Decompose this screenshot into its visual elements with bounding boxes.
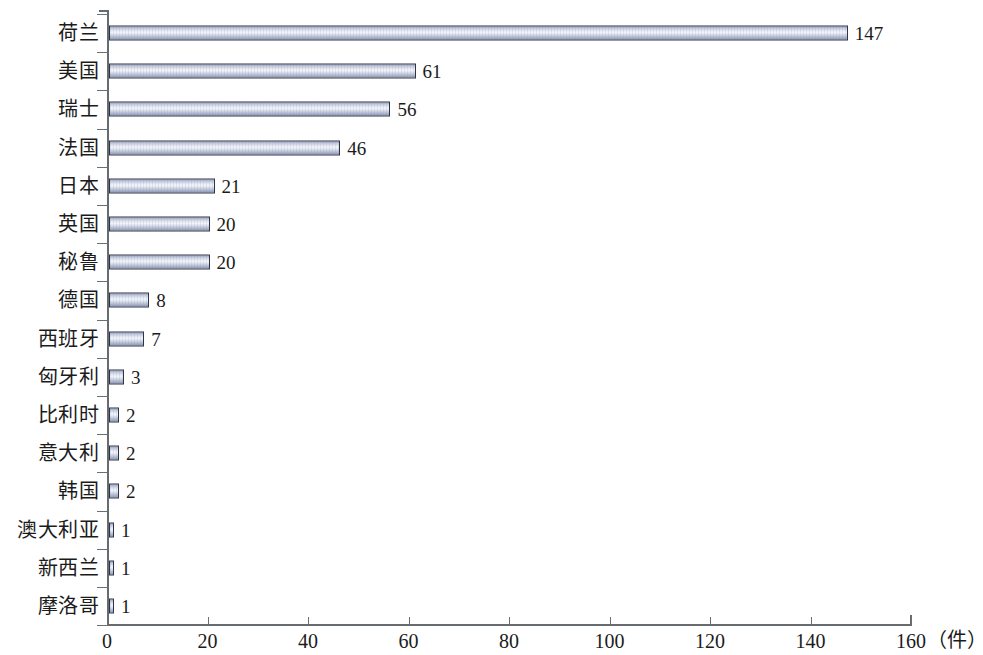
- bar: [109, 369, 124, 384]
- bar-with-value: 20: [109, 255, 236, 270]
- y-axis-tick: [97, 52, 108, 53]
- y-axis-tick: [97, 549, 108, 550]
- bar: [109, 178, 215, 193]
- bar-value-label: 1: [121, 597, 131, 616]
- bar: [109, 446, 119, 461]
- x-axis-unit-label: （件）: [927, 630, 983, 650]
- bar-with-value: 46: [109, 140, 366, 155]
- x-axis-tick-label: 80: [499, 631, 519, 651]
- bar: [109, 560, 114, 575]
- bar-value-label: 21: [222, 176, 241, 195]
- bar-row: 日本21: [0, 167, 983, 205]
- y-axis-tick: [97, 511, 108, 512]
- category-label: 英国: [58, 214, 99, 234]
- x-axis-tick-label: 0: [102, 631, 112, 651]
- bar: [109, 293, 149, 308]
- y-axis-tick: [97, 587, 108, 588]
- category-label: 荷兰: [58, 23, 99, 43]
- y-axis-tick: [97, 358, 108, 359]
- category-label: 摩洛哥: [38, 596, 100, 616]
- x-axis-tick: [509, 617, 510, 625]
- y-axis-tick: [97, 434, 108, 435]
- x-axis-tick-label: 40: [298, 631, 318, 651]
- category-label: 比利时: [38, 405, 100, 425]
- bar: [109, 599, 114, 614]
- bar-value-label: 7: [151, 329, 161, 348]
- bar-row: 秘鲁20: [0, 243, 983, 281]
- bar-row: 新西兰1: [0, 549, 983, 587]
- bar-with-value: 2: [109, 446, 136, 461]
- y-axis-tick: [97, 472, 108, 473]
- bar: [109, 331, 144, 346]
- bar-with-value: 7: [109, 331, 161, 346]
- x-axis-tick: [710, 617, 711, 625]
- y-axis-tick: [97, 281, 108, 282]
- bar: [109, 408, 119, 423]
- category-label: 日本: [58, 176, 99, 196]
- bar: [109, 140, 340, 155]
- category-label: 西班牙: [38, 329, 100, 349]
- bar-with-value: 147: [109, 26, 883, 41]
- bar-with-value: 2: [109, 484, 136, 499]
- bar-with-value: 20: [109, 217, 236, 232]
- x-axis-tick: [308, 617, 309, 625]
- y-axis-tick: [97, 243, 108, 244]
- x-axis-tick-label: 100: [595, 631, 625, 651]
- bar: [109, 522, 114, 537]
- bar-row: 匈牙利3: [0, 358, 983, 396]
- bar: [109, 255, 210, 270]
- bar-row: 瑞士56: [0, 90, 983, 128]
- y-axis-tick: [97, 625, 108, 626]
- bar-value-label: 1: [121, 558, 131, 577]
- bar: [109, 64, 416, 79]
- category-label: 新西兰: [38, 558, 100, 578]
- bar-row: 澳大利亚1: [0, 511, 983, 549]
- category-label: 德国: [58, 290, 99, 310]
- y-axis-tick: [97, 14, 108, 15]
- x-axis-tick: [107, 617, 108, 625]
- bar-value-label: 61: [423, 62, 442, 81]
- bar-with-value: 3: [109, 369, 141, 384]
- category-label: 秘鲁: [58, 252, 99, 272]
- bar: [109, 217, 210, 232]
- x-axis-tick-label: 60: [399, 631, 419, 651]
- bar-row: 德国8: [0, 281, 983, 319]
- y-axis-tick: [97, 320, 108, 321]
- bar-with-value: 61: [109, 64, 442, 79]
- x-axis-tick: [811, 617, 812, 625]
- bar-with-value: 1: [109, 522, 131, 537]
- y-axis-tick: [97, 167, 108, 168]
- bar-value-label: 8: [156, 291, 166, 310]
- bar-with-value: 21: [109, 178, 241, 193]
- x-axis-tick-label: 160: [896, 631, 926, 651]
- bar-value-label: 2: [126, 406, 136, 425]
- bar-value-label: 20: [217, 253, 236, 272]
- bar-value-label: 20: [217, 215, 236, 234]
- category-label: 韩国: [58, 481, 99, 501]
- bar: [109, 484, 119, 499]
- y-axis-tick: [97, 396, 108, 397]
- bar-value-label: 3: [131, 367, 141, 386]
- bar-row: 摩洛哥1: [0, 587, 983, 625]
- bar-row: 意大利2: [0, 434, 983, 472]
- y-axis-tick: [97, 129, 108, 130]
- bar-value-label: 46: [347, 138, 366, 157]
- bar-value-label: 2: [126, 444, 136, 463]
- x-axis-tick: [610, 617, 611, 625]
- y-axis-tick: [97, 90, 108, 91]
- bar-with-value: 56: [109, 102, 416, 117]
- bar-value-label: 1: [121, 520, 131, 539]
- category-label: 匈牙利: [38, 367, 100, 387]
- bar-row: 韩国2: [0, 472, 983, 510]
- y-axis-tick: [97, 205, 108, 206]
- bar-chart: 荷兰147美国61瑞士56法国46日本21英国20秘鲁20德国8西班牙7匈牙利3…: [0, 0, 983, 655]
- bar-row: 西班牙7: [0, 320, 983, 358]
- category-label: 澳大利亚: [17, 520, 99, 540]
- bar-row: 法国46: [0, 129, 983, 167]
- x-axis-tick-label: 20: [198, 631, 218, 651]
- x-axis-tick: [911, 617, 912, 625]
- bar-row: 比利时2: [0, 396, 983, 434]
- bar: [109, 26, 848, 41]
- bar-row: 美国61: [0, 52, 983, 90]
- category-label: 瑞士: [58, 99, 99, 119]
